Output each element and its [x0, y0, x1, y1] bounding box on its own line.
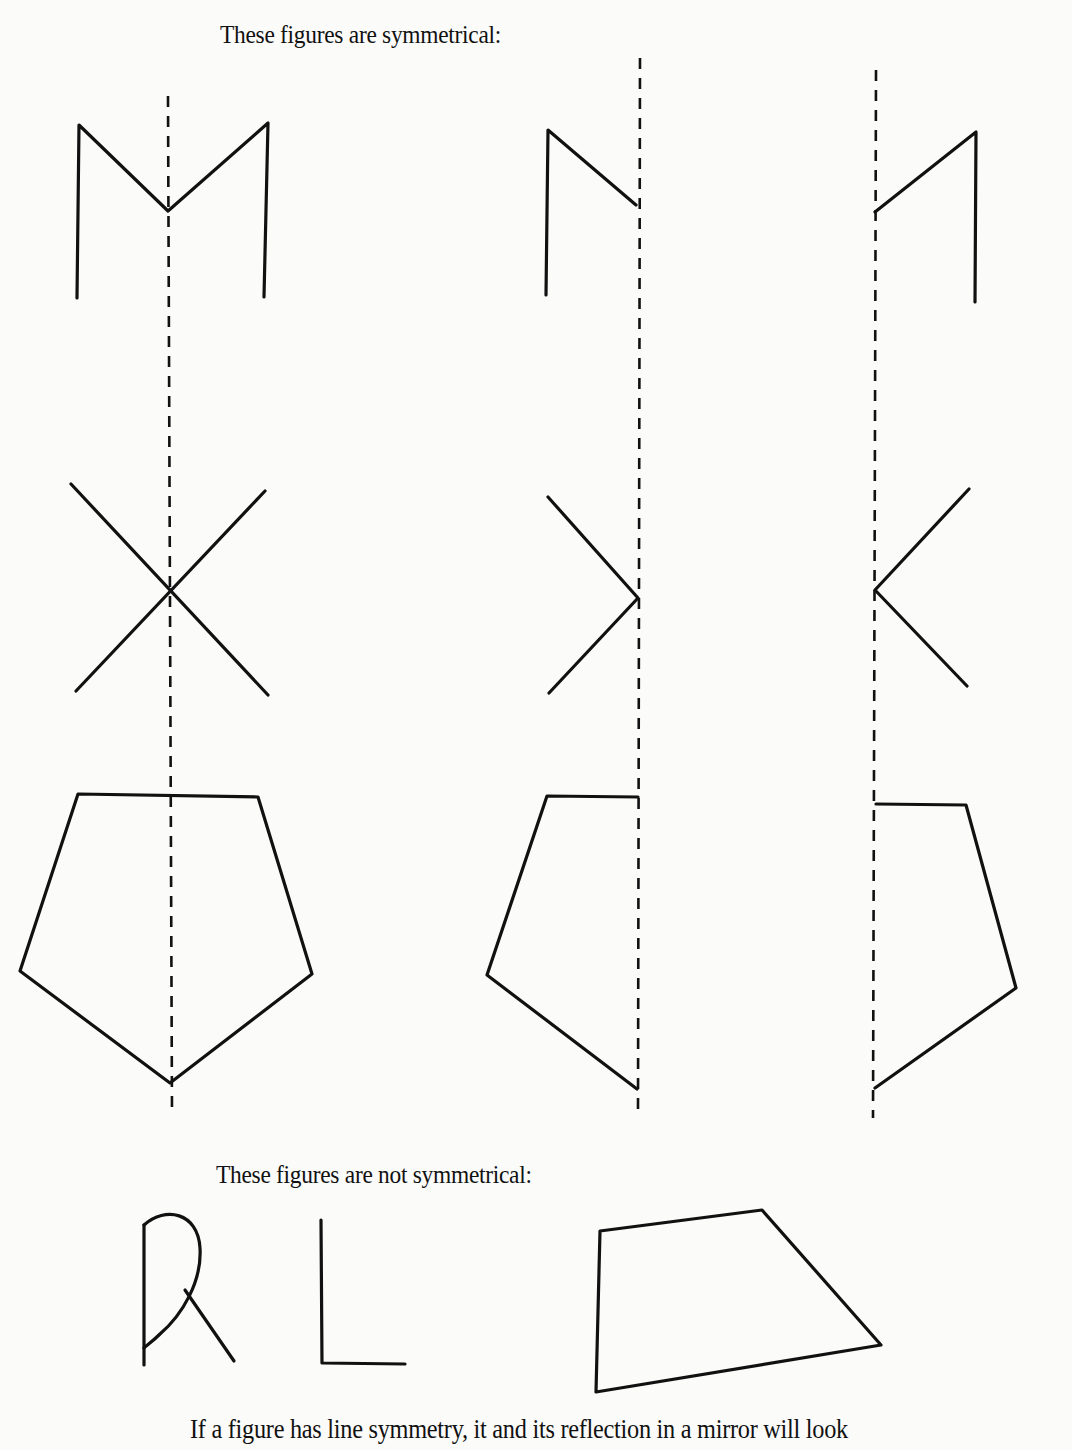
figures-canvas [0, 0, 1072, 1450]
m-shape-right-half [875, 132, 976, 302]
x-shape-left-half [548, 497, 638, 693]
m-shape-left-half [546, 130, 636, 295]
symmetry-axis-whole [168, 96, 172, 1112]
pentagon-left-half [487, 796, 638, 1089]
x-shape-right-half [875, 489, 969, 686]
body-text: If a figure has line symmetry, it and it… [190, 1414, 848, 1445]
pentagon-right-half [875, 804, 1016, 1088]
quadrilateral-figure [596, 1210, 881, 1392]
symmetry-axis-left-half [638, 58, 640, 1112]
not-symmetrical-caption: These figures are not symmetrical: [216, 1160, 532, 1190]
pentagon-whole [20, 794, 312, 1083]
letter-l-figure [321, 1220, 405, 1364]
m-shape-whole [77, 123, 268, 298]
letter-r-figure [144, 1214, 234, 1365]
symmetry-axis-right-half [873, 70, 876, 1118]
